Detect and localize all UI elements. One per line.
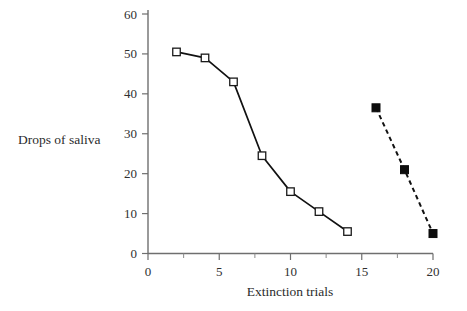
data-point-filled bbox=[401, 166, 409, 174]
y-axis-title: Drops of saliva bbox=[18, 132, 100, 147]
x-tick-label: 15 bbox=[355, 264, 368, 279]
y-tick-label: 10 bbox=[124, 206, 137, 221]
x-axis-title: Extinction trials bbox=[247, 284, 334, 299]
data-point-open bbox=[201, 54, 209, 62]
y-tick-label: 60 bbox=[124, 7, 137, 22]
data-point-open bbox=[287, 188, 295, 196]
chart-figure: 0102030405060 05101520 Drops of saliva E… bbox=[0, 0, 467, 311]
y-tick-label: 40 bbox=[124, 86, 137, 101]
x-tick-label: 0 bbox=[145, 264, 152, 279]
data-point-open bbox=[258, 152, 266, 160]
y-tick-label: 30 bbox=[124, 126, 137, 141]
y-tick-label: 50 bbox=[124, 46, 137, 61]
data-point-filled bbox=[372, 104, 380, 112]
data-point-filled bbox=[429, 230, 437, 238]
x-tick-label: 20 bbox=[427, 264, 440, 279]
x-tick-label: 5 bbox=[216, 264, 223, 279]
extinction-line-chart: 0102030405060 05101520 Drops of saliva E… bbox=[0, 0, 467, 311]
data-point-open bbox=[344, 228, 352, 236]
y-tick-label: 20 bbox=[124, 166, 137, 181]
data-point-open bbox=[230, 78, 238, 86]
data-point-open bbox=[173, 48, 181, 56]
y-tick-label: 0 bbox=[131, 246, 138, 261]
data-point-open bbox=[315, 208, 323, 216]
x-tick-label: 10 bbox=[284, 264, 297, 279]
